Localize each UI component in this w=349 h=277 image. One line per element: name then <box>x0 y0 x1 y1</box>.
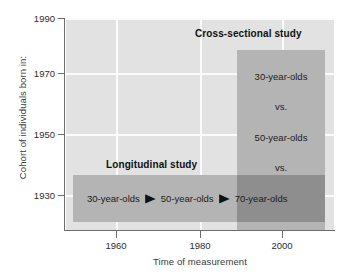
x-axis-title: Time of measurement <box>65 256 335 267</box>
y-axis-line <box>64 18 65 231</box>
cohort-sequential-design-figure: Cohort of individuals born in: Cross-sec… <box>0 0 349 277</box>
x-tick-1980 <box>200 231 201 238</box>
longitudinal-step-50-year-olds: 50-year-olds <box>161 193 214 204</box>
x-tick-label-1960: 1960 <box>91 240 141 251</box>
y-tick-label-1930: 1930 <box>11 190 55 201</box>
cross-sectional-cell-50-year-olds: 50-year-olds <box>237 132 325 143</box>
cross-sectional-cell-30-year-olds: 30-year-olds <box>237 71 325 82</box>
arrow-right-icon: ▶ <box>145 192 155 204</box>
longitudinal-study-heading: Longitudinal study <box>106 159 197 170</box>
y-tick-label-1970: 1970 <box>11 68 55 79</box>
y-tick-1930 <box>58 195 65 196</box>
cross-sectional-vs-1: vs. <box>237 101 325 112</box>
longitudinal-flow: 30-year-olds ▶ 50-year-olds ▶ 70-year-ol… <box>87 192 287 204</box>
cross-sectional-study-heading: Cross-sectional study <box>195 28 302 39</box>
x-tick-2000 <box>282 231 283 238</box>
x-tick-1960 <box>116 231 117 238</box>
y-tick-1970 <box>58 73 65 74</box>
y-tick-1950 <box>58 134 65 135</box>
x-tick-label-1980: 1980 <box>175 240 225 251</box>
plot-area: Cross-sectional study 30-year-olds vs. 5… <box>66 18 334 230</box>
arrow-right-icon: ▶ <box>219 192 229 204</box>
longitudinal-step-70-year-olds: 70-year-olds <box>235 193 288 204</box>
y-tick-label-1950: 1950 <box>11 129 55 140</box>
y-tick-label-1990: 1990 <box>11 13 55 24</box>
cross-sectional-vs-2: vs. <box>237 162 325 173</box>
x-tick-label-2000: 2000 <box>257 240 307 251</box>
plot-panel-inner: Cross-sectional study 30-year-olds vs. 5… <box>66 18 334 230</box>
longitudinal-step-30-year-olds: 30-year-olds <box>87 193 140 204</box>
y-tick-1990 <box>58 18 65 19</box>
